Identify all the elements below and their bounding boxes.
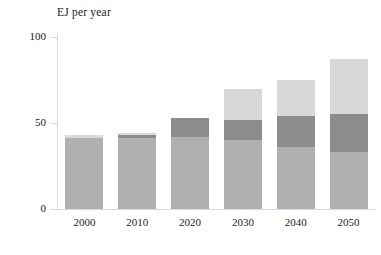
x-tick-label-2040: 2040 [269,216,322,228]
y-tick-50 [50,123,58,124]
plot-area [58,37,375,209]
y-tick-label-100: 100 [0,30,46,42]
bar-segment-2040-s2[interactable] [277,116,315,147]
y-tick-label-0: 0 [0,202,46,214]
bar-segment-2050-s3[interactable] [330,59,368,114]
bar-segment-2050-s1[interactable] [330,152,368,209]
bar-segment-2010-s3[interactable] [118,133,156,135]
x-tick-label-2020: 2020 [164,216,217,228]
bar-segment-2020-s1[interactable] [171,137,209,209]
x-tick-label-2010: 2010 [111,216,164,228]
bar-segment-2010-s2[interactable] [118,135,156,138]
bar-segment-2040-s1[interactable] [277,147,315,209]
y-tick-label-50: 50 [0,116,46,128]
x-tick-label-2050: 2050 [322,216,375,228]
bar-2030[interactable] [224,37,262,209]
bar-segment-2020-s2[interactable] [171,118,209,137]
bar-segment-2000-s3[interactable] [65,135,103,138]
bar-2000[interactable] [65,37,103,209]
bar-segment-2040-s3[interactable] [277,80,315,116]
bar-segment-2000-s1[interactable] [65,138,103,209]
bar-segment-2030-s3[interactable] [224,89,262,120]
bar-2020[interactable] [171,37,209,209]
x-axis-line [57,209,375,210]
y-tick-100 [50,37,58,38]
chart-axis-title: EJ per year [57,6,111,18]
bar-segment-2010-s1[interactable] [118,138,156,209]
x-tick-label-2030: 2030 [217,216,270,228]
bar-2050[interactable] [330,37,368,209]
bar-2040[interactable] [277,37,315,209]
x-tick-label-2000: 2000 [58,216,111,228]
y-tick-0 [50,209,58,210]
bar-segment-2030-s2[interactable] [224,120,262,141]
bar-segment-2030-s1[interactable] [224,140,262,209]
chart-container: EJ per year 050100 200020102020203020402… [0,0,381,255]
bar-segment-2050-s2[interactable] [330,114,368,152]
bar-2010[interactable] [118,37,156,209]
